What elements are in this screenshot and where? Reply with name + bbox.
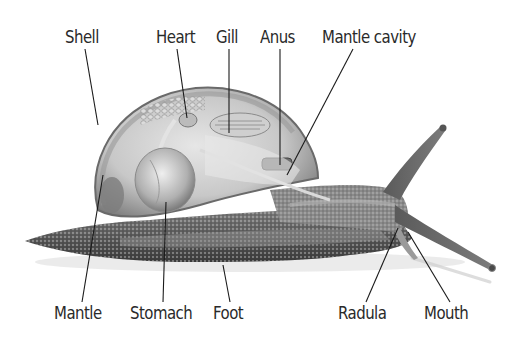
label-mantle: Mantle — [54, 303, 102, 323]
snail-anatomy-diagram: Shell Heart Gill Anus Mantle cavity Mant… — [0, 0, 515, 345]
heart-structure — [179, 113, 197, 127]
upper-tentacle — [383, 127, 445, 200]
label-radula: Radula — [338, 303, 386, 323]
label-heart: Heart — [156, 27, 195, 47]
label-mouth: Mouth — [424, 303, 468, 323]
label-anus: Anus — [260, 27, 295, 47]
stomach-structure — [135, 148, 195, 212]
snail-illustration — [0, 0, 515, 345]
leader-mantle-cavity — [287, 49, 353, 175]
leader-shell — [85, 49, 98, 125]
label-foot: Foot — [213, 303, 243, 323]
label-shell: Shell — [65, 27, 99, 47]
label-gill: Gill — [216, 27, 238, 47]
label-mantle-cavity: Mantle cavity — [322, 27, 416, 47]
label-stomach: Stomach — [130, 303, 192, 323]
